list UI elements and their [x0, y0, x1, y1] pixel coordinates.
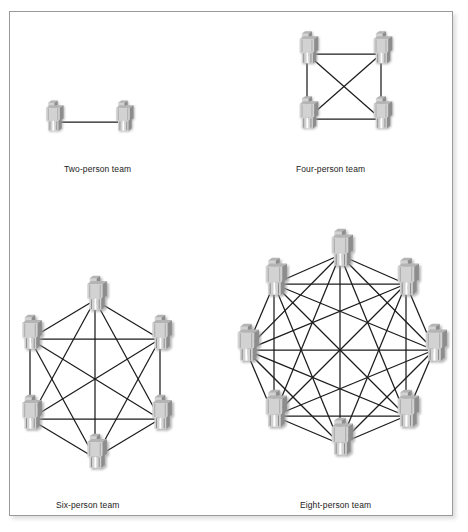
person-leg-gap [339, 442, 341, 454]
person-torso-side [103, 281, 107, 299]
person-icon [332, 229, 353, 266]
person-icon [332, 418, 353, 455]
person-leg-gap [122, 121, 124, 131]
person-leg-gap [405, 282, 407, 294]
person-leg-gap [433, 348, 435, 360]
person-icon [22, 395, 42, 429]
person-icon [398, 390, 419, 427]
person-icon [266, 258, 287, 295]
person-leg-gap [339, 253, 341, 265]
person-icons-layer [22, 31, 447, 468]
panel-label-two-person: Two-person team [64, 164, 131, 174]
person-leg-gap [380, 118, 382, 129]
person-leg-gap [159, 338, 161, 349]
person-leg-gap [273, 414, 275, 426]
person-icon [87, 276, 107, 310]
person-icon [374, 96, 392, 128]
person-leg-gap [405, 414, 407, 426]
nodes-six-person [22, 276, 172, 468]
person-torso-side [414, 263, 419, 282]
person-torso-side [254, 329, 259, 348]
person-leg-gap [245, 348, 247, 360]
person-leg-gap [159, 418, 161, 429]
person-icon [152, 395, 172, 429]
person-torso-side [38, 320, 42, 338]
person-torso-side [282, 395, 287, 414]
connection-line [30, 339, 95, 458]
panel-label-eight-person: Eight-person team [300, 500, 371, 510]
person-icon [87, 434, 107, 468]
person-icon [300, 96, 318, 128]
person-icon [116, 101, 133, 131]
panel-label-four-person: Four-person team [296, 164, 365, 174]
person-leg-gap [306, 118, 308, 129]
person-torso-side [414, 395, 419, 414]
nodes-four-person [300, 31, 392, 128]
person-icon [300, 31, 318, 63]
person-torso-side [348, 234, 353, 253]
person-torso-side [348, 423, 353, 442]
network-diagram-canvas [0, 0, 468, 532]
person-icon [374, 31, 392, 63]
person-icon [22, 315, 42, 349]
person-leg-gap [380, 53, 382, 64]
person-torso-side [442, 329, 447, 348]
person-torso-side [282, 263, 287, 282]
person-icon [152, 315, 172, 349]
person-leg-gap [29, 338, 31, 349]
person-leg-gap [94, 299, 96, 310]
nodes-two-person [46, 101, 133, 131]
person-icon [238, 324, 259, 361]
person-leg-gap [94, 457, 96, 468]
panel-label-six-person: Six-person team [56, 500, 119, 510]
connection-lines-layer [30, 54, 434, 458]
person-icon [266, 390, 287, 427]
person-icon [46, 101, 63, 131]
person-leg-gap [306, 53, 308, 64]
person-icon [398, 258, 419, 295]
person-torso-side [103, 439, 107, 457]
person-leg-gap [29, 418, 31, 429]
person-icon [426, 324, 447, 361]
person-torso-side [38, 400, 42, 418]
figure-root: Two-person team Four-person team Six-per… [0, 0, 468, 532]
person-leg-gap [52, 121, 54, 131]
person-leg-gap [273, 282, 275, 294]
